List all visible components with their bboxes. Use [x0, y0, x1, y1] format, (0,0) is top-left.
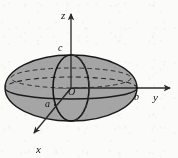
z-axis-label: z	[60, 9, 66, 21]
y-axis-label: y	[152, 91, 158, 103]
intercept-a-dot	[54, 104, 56, 106]
ellipsoid-svg-canvas: z y x O a b c	[0, 0, 178, 158]
ellipsoid-figure: z y x O a b c	[0, 0, 178, 158]
semi-axis-c-label: c	[58, 42, 63, 53]
intercept-c-dot	[70, 54, 72, 56]
semi-axis-b-label: b	[134, 91, 139, 102]
semi-axis-a-label: a	[45, 98, 50, 109]
origin-label: O	[68, 86, 75, 97]
intercept-b-dot	[136, 87, 138, 89]
x-axis-label: x	[35, 143, 41, 155]
